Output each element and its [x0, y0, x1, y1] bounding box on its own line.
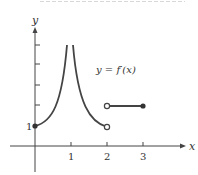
open-point-2-2 [104, 103, 109, 108]
closed-point-3-2 [140, 103, 145, 108]
curve-middle-branch [73, 45, 107, 127]
graph-plot: x 1 2 3 y 1 y = f′(x) [0, 0, 198, 175]
closed-point-0-1 [32, 123, 37, 128]
y-axis-arrow-icon [33, 27, 38, 33]
x-axis-arrow-icon [180, 144, 186, 149]
x-tick-label-3: 3 [140, 151, 146, 162]
y-tick-label-1: 1 [26, 121, 32, 132]
x-axis: x 1 2 3 [10, 140, 196, 162]
y-axis: y 1 [26, 14, 40, 172]
curve-label: y = f′(x) [95, 64, 136, 75]
x-tick-label-2: 2 [104, 151, 110, 162]
open-point-2-1 [104, 124, 109, 129]
y-axis-label: y [31, 14, 39, 27]
x-axis-label: x [189, 140, 196, 153]
x-tick-label-1: 1 [68, 151, 74, 162]
